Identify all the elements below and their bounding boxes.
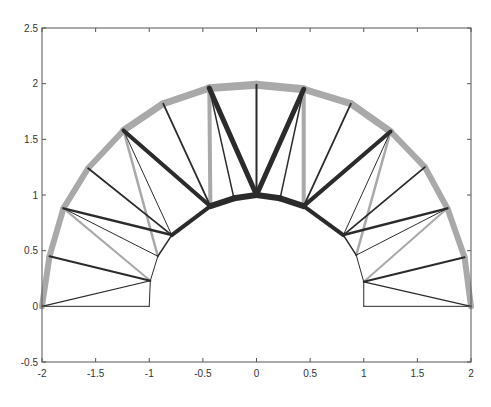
y-tick-label: 2.5	[24, 23, 38, 34]
x-tick-label: 2	[468, 368, 474, 379]
truss-member	[63, 168, 88, 208]
truss-member	[304, 132, 391, 207]
truss-member	[209, 85, 256, 88]
truss-member	[172, 206, 211, 235]
x-axis-ticks: -2-1.5-1-0.500.511.52	[38, 28, 475, 379]
y-tick-label: -0.5	[21, 357, 39, 368]
truss-member	[356, 255, 364, 282]
truss-members	[42, 85, 471, 307]
truss-member	[343, 235, 356, 255]
truss-member	[257, 89, 304, 195]
truss-member	[210, 198, 234, 206]
truss-member	[280, 198, 304, 206]
truss-member	[50, 208, 64, 256]
truss-member	[42, 281, 150, 307]
truss-member	[149, 281, 150, 307]
truss-member	[42, 256, 50, 306]
truss-member	[425, 167, 448, 208]
truss-member	[209, 88, 210, 206]
x-tick-label: 0	[254, 368, 260, 379]
truss-member	[158, 235, 172, 256]
truss-member	[351, 104, 391, 132]
y-tick-label: 1.5	[24, 134, 38, 145]
x-tick-label: -0.5	[194, 368, 212, 379]
x-tick-label: 0.5	[303, 368, 317, 379]
truss-member	[163, 88, 209, 104]
truss-member	[304, 89, 351, 103]
x-tick-label: 1	[361, 368, 367, 379]
truss-member	[304, 104, 351, 206]
y-tick-label: 2	[32, 78, 38, 89]
y-tick-label: 0.5	[24, 245, 38, 256]
truss-member	[124, 130, 211, 206]
y-tick-label: 0	[32, 301, 38, 312]
truss-member	[63, 208, 157, 256]
truss-member	[280, 89, 304, 198]
truss-member	[150, 256, 158, 280]
truss-member	[234, 195, 257, 198]
truss-chart: -2-1.5-1-0.500.511.52 -0.500.511.522.5	[0, 0, 491, 407]
y-tick-label: 1	[32, 190, 38, 201]
truss-member	[304, 206, 344, 235]
truss-member	[364, 282, 471, 306]
x-tick-label: -1	[145, 368, 154, 379]
truss-member	[88, 130, 123, 168]
truss-member	[391, 132, 425, 168]
x-tick-label: 1.5	[410, 368, 424, 379]
truss-member	[124, 104, 164, 131]
truss-member	[356, 132, 390, 256]
truss-member	[209, 88, 234, 198]
x-tick-label: -2	[38, 368, 47, 379]
truss-member	[447, 208, 464, 257]
truss-member	[257, 195, 281, 198]
truss-member	[163, 104, 210, 206]
truss-member	[465, 257, 471, 306]
x-tick-label: -1.5	[87, 368, 105, 379]
truss-member	[209, 88, 256, 195]
truss-member	[257, 85, 304, 89]
